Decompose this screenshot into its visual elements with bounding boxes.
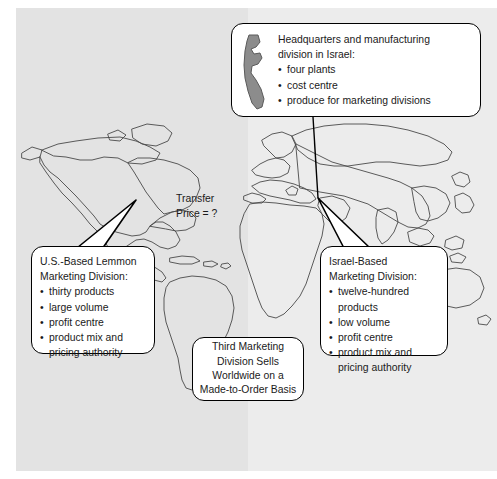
- us-bullet-1: thirty products: [40, 284, 146, 299]
- headquarters-heading-line1: Headquarters and manufacturing: [278, 32, 431, 47]
- us-bullet-list: thirty products large volume profit cent…: [40, 284, 146, 360]
- israel-map-shape-icon: [240, 33, 270, 111]
- israel-bullet-2: low volume: [329, 315, 439, 330]
- transfer-price-label: Transfer Price = ?: [176, 192, 217, 221]
- us-heading-line2: Marketing Division:: [40, 269, 146, 284]
- us-bullet-4: product mix and: [40, 330, 146, 345]
- headquarters-bullet-1: four plants: [278, 62, 431, 77]
- headquarters-heading-line2: division in Israel:: [278, 47, 431, 62]
- third-division-callout[interactable]: Third Marketing Division Sells Worldwide…: [192, 337, 304, 401]
- transfer-price-line1: Transfer: [176, 192, 217, 207]
- us-callout-tail: [72, 200, 136, 252]
- third-division-line4: Made-to-Order Basis: [200, 383, 296, 397]
- third-division-line1: Third Marketing: [200, 340, 296, 354]
- us-bullet-2: large volume: [40, 300, 146, 315]
- israel-bullet-1-continuation: products: [329, 300, 439, 315]
- headquarters-bullet-3: produce for marketing divisions: [278, 93, 431, 108]
- israel-bullet-3: profit centre: [329, 330, 439, 345]
- israel-bullet-list: twelve-hundred products low volume profi…: [329, 284, 439, 375]
- us-bullet-3: profit centre: [40, 315, 146, 330]
- headquarters-callout[interactable]: Headquarters and manufacturing division …: [231, 23, 481, 117]
- israel-bullet-1: twelve-hundred: [329, 284, 439, 299]
- headquarters-bullet-list: four plants cost centre produce for mark…: [278, 62, 431, 108]
- israel-heading-line2: Marketing Division:: [329, 269, 439, 284]
- us-marketing-callout[interactable]: U.S.-Based Lemmon Marketing Division: th…: [31, 246, 155, 354]
- israel-heading-line1: Israel-Based: [329, 254, 439, 269]
- israel-marketing-callout[interactable]: Israel-Based Marketing Division: twelve-…: [320, 246, 448, 356]
- israel-callout-tail: [318, 198, 370, 252]
- us-bullet-4-continuation: pricing authority: [40, 345, 146, 360]
- headquarters-bullet-2: cost centre: [278, 78, 431, 93]
- israel-bullet-4-continuation: pricing authority: [329, 360, 439, 375]
- third-division-line3: Worldwide on a: [200, 369, 296, 383]
- us-heading-line1: U.S.-Based Lemmon: [40, 254, 146, 269]
- diagram-canvas: Headquarters and manufacturing division …: [0, 0, 497, 479]
- third-division-line2: Division Sells: [200, 355, 296, 369]
- israel-bullet-4: product mix and: [329, 345, 439, 360]
- hq-connector-line: [313, 117, 318, 198]
- transfer-price-line2: Price = ?: [176, 207, 217, 222]
